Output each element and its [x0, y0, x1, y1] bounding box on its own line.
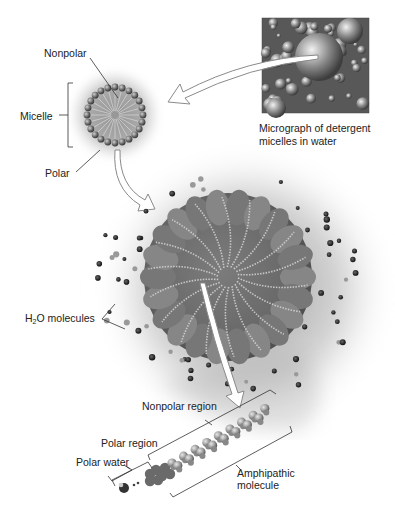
label-polar-water: Polar water — [76, 456, 129, 468]
label-nonpolar: Nonpolar — [44, 47, 87, 59]
label-nonpolar-region: Nonpolar region — [142, 400, 217, 412]
label-polar-region: Polar region — [101, 437, 158, 449]
micrograph-image — [261, 18, 369, 118]
label-amphipathic-line2: molecule — [237, 479, 279, 491]
label-micelle: Micelle — [20, 110, 53, 122]
micelle-diagram: Nonpolar Micelle Polar Micrograph of det… — [0, 0, 395, 514]
micelle-ring-diagram — [69, 69, 161, 161]
label-amphipathic-line1: Amphipathic — [237, 467, 295, 479]
diagram-graphics — [0, 0, 395, 514]
label-micrograph-line1: Micrograph of detergent — [259, 122, 370, 134]
label-h2o-molecules: H2O molecules — [25, 312, 95, 328]
label-polar: Polar — [45, 167, 70, 179]
label-micrograph-line2: micelles in water — [259, 135, 337, 147]
